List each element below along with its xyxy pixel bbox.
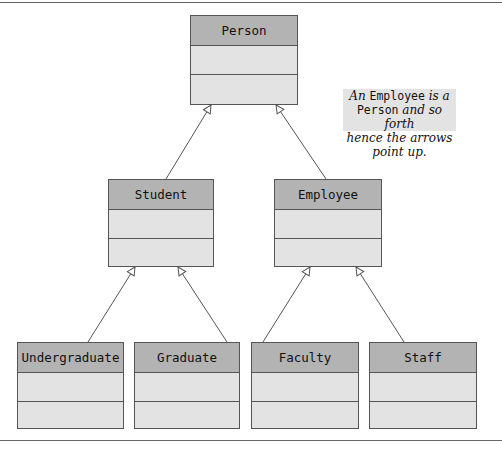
class-name: Student [109, 180, 213, 210]
class-name: Graduate [135, 343, 239, 373]
attributes-section [135, 373, 239, 402]
class-employee: Employee [274, 179, 382, 267]
class-name: Undergraduate [18, 343, 123, 373]
note-line-1: An Employee is a [343, 89, 456, 103]
class-staff: Staff [369, 342, 477, 429]
class-person: Person [190, 15, 298, 105]
methods-section [18, 402, 123, 431]
class-name: Person [191, 16, 297, 46]
arrow-faculty-to-employee [263, 267, 310, 342]
class-faculty: Faculty [251, 342, 359, 429]
note-code: Employee [370, 89, 425, 103]
methods-section [191, 75, 297, 104]
methods-section [370, 402, 476, 431]
class-name: Faculty [252, 343, 358, 373]
note-text: is a [425, 89, 450, 103]
methods-section [275, 239, 381, 268]
note-line-2: Person and so forth [343, 103, 456, 131]
class-graduate: Graduate [134, 342, 240, 429]
class-name: Staff [370, 343, 476, 373]
annotation-note: An Employee is a Person and so forth hen… [343, 89, 456, 131]
note-text: An [349, 89, 369, 103]
attributes-section [275, 210, 381, 239]
arrow-staff-to-employee [356, 267, 404, 342]
class-undergraduate: Undergraduate [17, 342, 124, 429]
note-code: Person [357, 103, 399, 117]
arrow-graduate-to-student [178, 267, 227, 342]
attributes-section [109, 210, 213, 239]
arrow-undergraduate-to-student [88, 267, 135, 342]
arrow-employee-to-person [276, 105, 326, 179]
attributes-section [252, 373, 358, 402]
attributes-section [18, 373, 123, 402]
arrow-student-to-person [166, 105, 211, 179]
class-name: Employee [275, 180, 381, 210]
attributes-section [191, 46, 297, 75]
methods-section [135, 402, 239, 431]
methods-section [252, 402, 358, 431]
note-line-3: hence the arrows point up. [343, 131, 456, 159]
methods-section [109, 239, 213, 268]
attributes-section [370, 373, 476, 402]
class-student: Student [108, 179, 214, 267]
